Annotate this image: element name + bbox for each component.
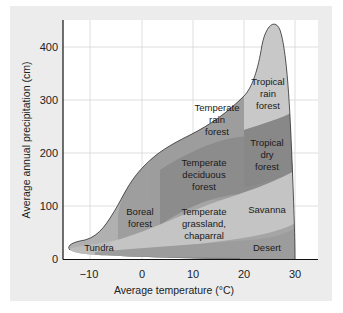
x-tick-labels: −10 0 10 20 30 [80,268,301,280]
y-tick-200: 200 [40,147,58,159]
y-tick-labels: 0 100 200 300 400 [40,41,58,265]
label-temperate-deciduous-line3: forest [192,181,216,192]
label-tropical-rain-line3: forest [256,100,280,111]
y-tick-100: 100 [40,200,58,212]
y-tick-0: 0 [52,253,58,265]
y-tick-400: 400 [40,41,58,53]
label-desert: Desert [253,242,281,253]
label-temperate-grassland-line2: grassland, [182,218,226,229]
x-tick-0: 0 [139,268,145,280]
biome-climate-diagram: 0 100 200 300 400 −10 0 10 20 30 Average… [0,0,343,313]
label-temperate-rain-line3: forest [205,126,229,137]
x-axis-title: Average temperature (°C) [114,284,234,296]
label-temperate-deciduous-line2: deciduous [182,169,226,180]
label-savanna: Savanna [248,204,286,215]
label-tropical-dry-line2: dry [260,149,273,160]
label-temperate-grassland-line3: chaparral [184,230,224,241]
label-tropical-dry-line3: forest [255,161,279,172]
label-temperate-rain-line1: Temperate [195,102,240,113]
label-temperate-grassland-line1: Temperate [182,206,227,217]
label-boreal-line1: Boreal [126,206,153,217]
y-tick-300: 300 [40,94,58,106]
x-tick-neg10: −10 [80,268,99,280]
label-tropical-rain-line1: Tropical [251,76,284,87]
label-tropical-dry-line1: Tropical [250,137,283,148]
y-axis-title: Average annual precipitation (cm) [20,62,32,219]
label-temperate-rain-line2: rain [209,114,225,125]
label-tropical-rain-line2: rain [260,88,276,99]
x-tick-20: 20 [238,268,250,280]
x-tick-30: 30 [289,268,301,280]
label-tundra: Tundra [84,242,114,253]
label-boreal-line2: forest [128,218,152,229]
label-temperate-deciduous-line1: Temperate [182,157,227,168]
x-tick-10: 10 [187,268,199,280]
